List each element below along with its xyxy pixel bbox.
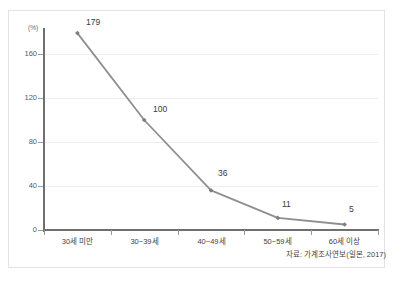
series-line-chart [0, 0, 404, 285]
data-point-label: 36 [218, 169, 227, 178]
series-marker [342, 222, 347, 227]
series-markers [75, 31, 347, 227]
data-point-label: 179 [86, 18, 100, 27]
series-polyline [77, 33, 344, 224]
source-note: 자료: 가계조사연보(일본, 2017) [286, 250, 386, 259]
data-point-label: 5 [349, 205, 354, 214]
data-point-label: 100 [153, 105, 167, 114]
data-point-label: 11 [282, 200, 291, 209]
chart-figure: 04080120160 (%) 30세 미만30~39세40~49세50~59세… [0, 0, 404, 285]
